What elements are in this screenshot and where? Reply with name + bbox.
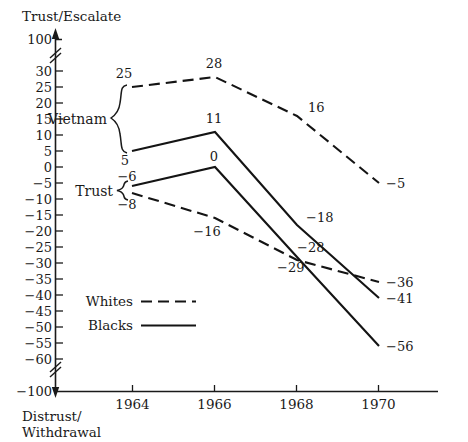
point-label-vietnam-whites-1964: 25 — [116, 66, 133, 81]
axes-group — [50, 28, 438, 398]
legend-label-blacks: Blacks — [88, 317, 133, 333]
y-axis-bottom-arrow — [52, 387, 59, 398]
y-label-minus55: −55 — [25, 336, 52, 351]
y-label-minus15: −15 — [25, 208, 52, 223]
y-label-minus25: −25 — [25, 240, 52, 255]
y-label-minus45: −45 — [25, 304, 52, 319]
y-label-minus10: −10 — [25, 192, 52, 207]
x-axis-tick-labels: 1964 1966 1968 1970 — [115, 396, 395, 412]
y-label-0: 0 — [44, 160, 52, 175]
y-label-minus20: −20 — [25, 224, 52, 239]
axis-title-bottom-line2: Withdrawal — [22, 424, 101, 440]
axis-title-bottom-line1: Distrust/ — [22, 408, 82, 424]
series-line-trust-blacks — [132, 167, 379, 346]
y-axis-top-arrow — [52, 28, 59, 39]
point-label-trust-whites-1970: −36 — [386, 275, 413, 290]
point-label-trust-whites-1968: −29 — [277, 260, 304, 275]
y-label-5: 5 — [44, 144, 52, 159]
point-label-vietnam-blacks-1970: −41 — [386, 291, 413, 306]
y-label-minus50: −50 — [25, 320, 52, 335]
x-label-1970: 1970 — [361, 396, 395, 412]
chart-legend: Whites Blacks — [86, 293, 196, 333]
y-label-minus40: −40 — [25, 288, 52, 303]
point-label-vietnam-blacks-1964: 5 — [121, 153, 129, 168]
point-label-vietnam-whites-1966: 28 — [206, 56, 223, 71]
series-line-trust-whites — [132, 193, 379, 282]
x-label-1968: 1968 — [279, 396, 313, 412]
y-label-20: 20 — [35, 96, 52, 111]
y-label-minus30: −30 — [25, 256, 52, 271]
x-label-1964: 1964 — [115, 396, 149, 412]
point-label-trust-blacks-1968: −28 — [297, 240, 324, 255]
y-label-minus5: −5 — [33, 176, 52, 191]
y-axis-tick-labels: 100 30 25 20 15 10 5 0 −5 −10 −15 −20 −2… — [16, 32, 52, 399]
x-label-1966: 1966 — [197, 396, 231, 412]
point-label-vietnam-whites-1970: −5 — [386, 176, 405, 191]
group-label-vietnam: Vietnam — [47, 111, 107, 127]
axis-title-top: Trust/Escalate — [22, 8, 121, 24]
vietnam-brace — [111, 85, 127, 153]
y-label-minus35: −35 — [25, 272, 52, 287]
y-label-100: 100 — [27, 32, 52, 47]
point-label-vietnam-blacks-1966: 11 — [206, 111, 223, 126]
y-label-10: 10 — [35, 128, 52, 143]
y-label-minus60: −60 — [25, 352, 52, 367]
series-line-vietnam-whites — [132, 77, 379, 183]
y-axis-ticks — [55, 40, 63, 360]
point-label-trust-whites-1966: −16 — [193, 224, 220, 239]
legend-label-whites: Whites — [86, 293, 133, 309]
point-label-trust-blacks-1966: 0 — [210, 149, 218, 164]
y-label-minus100: −100 — [16, 384, 52, 399]
chart-figure: 100 30 25 20 15 10 5 0 −5 −10 −15 −20 −2… — [0, 0, 468, 442]
group-label-trust: Trust — [75, 183, 113, 199]
y-label-25: 25 — [35, 80, 52, 95]
point-label-trust-blacks-1970: −56 — [386, 339, 413, 354]
point-label-vietnam-whites-1968: 16 — [308, 100, 325, 115]
point-label-vietnam-blacks-1968: −18 — [306, 210, 333, 225]
line-chart-plot: 100 30 25 20 15 10 5 0 −5 −10 −15 −20 −2… — [0, 0, 468, 442]
y-label-30: 30 — [35, 64, 52, 79]
